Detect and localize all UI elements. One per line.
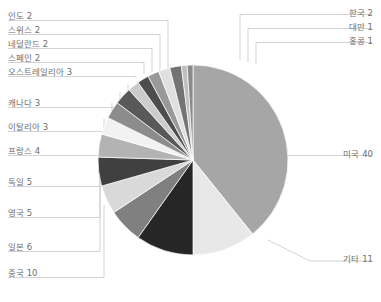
slice-label-australia: 오스트레일리아 3: [8, 67, 72, 77]
slice-label-taiwan: 대만 1: [349, 22, 373, 32]
slice-label-canada: 캐나다 3: [8, 98, 40, 108]
slice-label-uk: 영국 5: [8, 208, 32, 218]
pie-slices-group: [98, 65, 288, 255]
slice-label-italy: 이탈리아 3: [8, 122, 48, 132]
slice-label-hongkong: 홍콩 1: [349, 36, 373, 46]
slice-label-netherlands: 네덜란드 2: [8, 39, 48, 49]
slice-label-spain: 스페인 2: [8, 53, 40, 63]
slice-label-korea: 한국 2: [349, 8, 373, 18]
slice-label-germany: 독일 5: [8, 177, 32, 187]
pie-chart-canvas: [0, 0, 381, 302]
slice-label-china: 중국 10: [8, 268, 38, 278]
slice-label-others: 기타 11: [343, 254, 373, 264]
leader-line-diagonal: [268, 240, 310, 261]
slice-label-japan: 일본 6: [8, 242, 32, 252]
slice-label-france: 프랑스 4: [8, 146, 40, 156]
slice-label-india: 인도 2: [8, 11, 32, 21]
pie-chart-figure: 인도 2스위스 2네덜란드 2스페인 2오스트레일리아 3캐나다 3이탈리아 3…: [0, 0, 381, 302]
slice-label-switzerland: 스위스 2: [8, 25, 40, 35]
slice-label-usa: 미국 40: [343, 149, 373, 159]
